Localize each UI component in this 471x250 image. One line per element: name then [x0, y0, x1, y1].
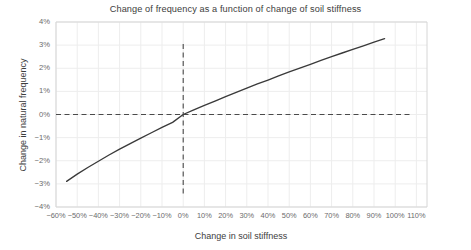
y-tick-label: 2% [20, 63, 50, 72]
y-tick-label: 4% [20, 17, 50, 26]
y-tick-label: 3% [20, 40, 50, 49]
y-tick-label: −3% [20, 179, 50, 188]
y-tick-label: 0% [20, 110, 50, 119]
x-tick-label: 110% [396, 211, 436, 220]
y-tick-label: −4% [20, 202, 50, 211]
chart-container: Change of frequency as a function of cha… [0, 0, 471, 250]
y-tick-label: −1% [20, 133, 50, 142]
reference-lines [56, 44, 412, 195]
y-tick-label: 1% [20, 86, 50, 95]
y-tick-label: −2% [20, 156, 50, 165]
x-axis-title: Change in soil stiffness [55, 231, 427, 241]
